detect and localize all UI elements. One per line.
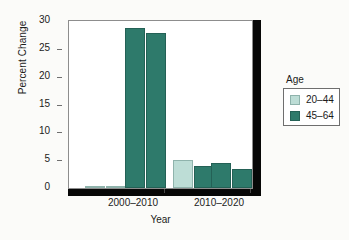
bar — [85, 186, 105, 188]
bar — [106, 186, 126, 188]
plot-area — [69, 21, 252, 188]
y-tick-label: 10 — [39, 125, 50, 136]
x-axis-title: Year — [68, 214, 253, 225]
legend-box: 20–44 45–64 — [283, 88, 340, 126]
y-tick-mark — [57, 160, 62, 161]
chart-figure: Percent Change 302520151050 2000–2010201… — [0, 0, 349, 240]
x-tick-mark — [250, 189, 251, 193]
y-tick: 25 — [0, 49, 62, 50]
bar — [146, 33, 166, 188]
y-axis-title: Percent Change — [17, 0, 28, 118]
legend-swatch-icon — [290, 111, 300, 121]
bar — [232, 169, 252, 188]
legend-item-label: 20–44 — [306, 94, 334, 105]
bar — [211, 163, 231, 188]
legend-item-label: 45–64 — [306, 110, 334, 121]
legend-swatch-icon — [290, 95, 300, 105]
y-tick-label: 25 — [39, 42, 50, 53]
y-tick: 5 — [0, 160, 62, 161]
y-tick-label: 15 — [39, 98, 50, 109]
plot-shadow-right — [253, 20, 261, 196]
y-tick-label: 0 — [44, 181, 50, 192]
y-tick-mark — [57, 49, 62, 50]
legend-title: Age — [286, 74, 304, 85]
y-tick: 10 — [0, 132, 62, 133]
bar — [125, 28, 145, 188]
y-tick-label: 5 — [44, 153, 50, 164]
x-tick-mark — [164, 189, 165, 193]
y-tick-mark — [57, 132, 62, 133]
y-tick-label: 20 — [39, 70, 50, 81]
y-tick: 15 — [0, 105, 62, 106]
y-tick: 0 — [0, 188, 62, 189]
y-tick: 30 — [0, 21, 62, 22]
y-tick-label: 30 — [39, 14, 50, 25]
y-tick: 20 — [0, 77, 62, 78]
y-tick-mark — [57, 105, 62, 106]
x-tick-label: 2010–2020 — [159, 197, 279, 208]
bar — [173, 160, 193, 188]
y-tick-mark — [57, 77, 62, 78]
